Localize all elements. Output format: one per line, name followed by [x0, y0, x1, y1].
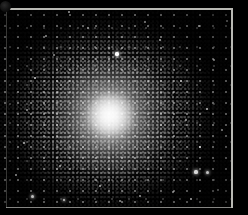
- plate-vignette: [0, 0, 248, 215]
- mat-bottom: [0, 208, 248, 215]
- frame-right-edge: [231, 8, 233, 208]
- corner-artifact-dot: [0, 1, 11, 12]
- frame-bottom-edge: [6, 207, 233, 208]
- mat-right: [233, 0, 248, 215]
- mat-top: [0, 0, 248, 8]
- astronomy-photograph: [0, 0, 248, 215]
- frame-top-edge: [6, 8, 233, 10]
- frame-left-edge: [6, 8, 7, 208]
- image-viewport: Globular cluster: [0, 0, 248, 215]
